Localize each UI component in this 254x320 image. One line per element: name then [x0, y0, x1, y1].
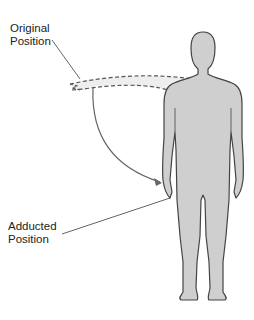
original-label-line1: Original	[10, 22, 51, 35]
adducted-label-line2: Position	[8, 233, 57, 246]
motion-arrow	[93, 88, 162, 186]
adducted-label-line1: Adducted	[8, 220, 57, 233]
human-figure	[163, 32, 244, 300]
adducted-position-label: Adducted Position	[8, 220, 57, 246]
original-label-line2: Position	[10, 35, 51, 48]
figure-body	[163, 32, 244, 300]
original-position-label: Original Position	[10, 22, 51, 48]
original-leader-line	[52, 40, 80, 79]
adduction-diagram	[0, 0, 254, 320]
adducted-leader-line	[62, 198, 170, 234]
